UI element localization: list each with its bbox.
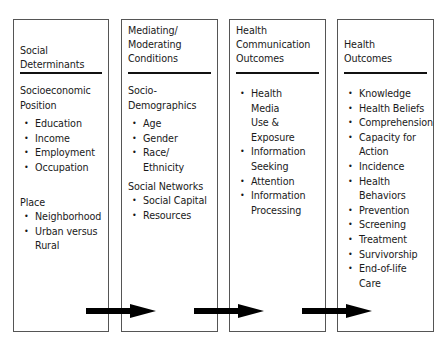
- title-line: Social: [20, 44, 102, 58]
- title-line: Determinants: [20, 58, 102, 72]
- column-social-determinants: Social Determinants Socioeconomic Positi…: [13, 19, 109, 332]
- title-line: Outcomes: [236, 52, 319, 66]
- column-title: Mediating/ Moderating Conditions: [128, 24, 211, 66]
- label-line: Socioeconomic: [20, 84, 104, 99]
- section-label-socio-demographics: Socio- Demographics: [128, 84, 213, 113]
- title-line: Health: [344, 38, 427, 52]
- list-item: Screening: [344, 218, 429, 233]
- list-item: Occupation: [20, 161, 104, 176]
- item-list: Social Capital Resources: [128, 194, 213, 223]
- column-health-communication-outcomes: Health Communication Outcomes Health Med…: [229, 19, 326, 332]
- list-item: Survivorship: [344, 248, 429, 263]
- list-item: Neighborhood: [20, 210, 104, 225]
- label-line: Position: [20, 99, 104, 114]
- arrow-right-icon: [86, 304, 156, 318]
- title-divider: [236, 72, 319, 74]
- list-item: End-of-life Care: [344, 262, 419, 291]
- column-title: Health Communication Outcomes: [236, 24, 319, 66]
- title-line: Communication: [236, 38, 319, 52]
- list-item: Health Beliefs: [344, 102, 429, 117]
- list-item: Urban versus Rural: [20, 225, 104, 254]
- title-divider: [20, 72, 102, 74]
- title-line: Conditions: [128, 52, 211, 66]
- list-item: Employment: [20, 146, 104, 161]
- item-list: Knowledge Health Beliefs Comprehension C…: [344, 87, 429, 291]
- title-divider: [344, 72, 427, 74]
- column-health-outcomes: Health Outcomes Knowledge Health Beliefs…: [337, 19, 434, 332]
- column-content: Socio- Demographics Age Gender Race/ Eth…: [128, 84, 213, 223]
- list-item: Information Processing: [236, 189, 321, 218]
- list-item: Income: [20, 132, 104, 147]
- title-line: Moderating: [128, 38, 211, 52]
- section-label-socioeconomic-position: Socioeconomic Position: [20, 84, 104, 113]
- item-list: Education Income Employment Occupation: [20, 117, 104, 175]
- list-item: Age: [128, 117, 213, 132]
- column-mediating-moderating-conditions: Mediating/ Moderating Conditions Socio- …: [121, 19, 218, 332]
- column-title: Health Outcomes: [344, 38, 427, 66]
- list-item: Knowledge: [344, 87, 429, 102]
- list-item: Social Capital: [128, 194, 213, 209]
- label-line: Socio-: [128, 84, 213, 99]
- column-content: Socioeconomic Position Education Income …: [20, 84, 104, 254]
- list-item: Capacity for Action: [344, 131, 425, 160]
- section-label-social-networks: Social Networks: [128, 180, 213, 195]
- column-content: Health Media Use & Exposure Information …: [236, 87, 321, 218]
- item-list: Health Media Use & Exposure Information …: [236, 87, 321, 218]
- list-item: Information Seeking: [236, 145, 321, 174]
- arrow-right-icon: [194, 304, 264, 318]
- title-line: Mediating/: [128, 24, 211, 38]
- column-title: Social Determinants: [20, 44, 102, 72]
- list-item: Gender: [128, 132, 213, 147]
- list-item: Prevention: [344, 204, 429, 219]
- list-item: Health Media Use & Exposure: [236, 87, 295, 145]
- title-divider: [128, 72, 211, 74]
- list-item: Resources: [128, 209, 213, 224]
- label-line: Place: [20, 196, 104, 211]
- list-item: Incidence: [344, 160, 429, 175]
- label-line: Demographics: [128, 99, 213, 114]
- list-item: Attention: [236, 175, 321, 190]
- list-item: Comprehension: [344, 116, 429, 131]
- list-item: Race/ Ethnicity: [128, 146, 203, 175]
- list-item: Treatment: [344, 233, 429, 248]
- arrow-right-icon: [302, 304, 372, 318]
- list-item: Education: [20, 117, 104, 132]
- column-content: Knowledge Health Beliefs Comprehension C…: [344, 87, 429, 291]
- item-list: Age Gender Race/ Ethnicity: [128, 117, 213, 175]
- label-line: Social Networks: [128, 180, 213, 195]
- section-label-place: Place: [20, 196, 104, 211]
- title-line: Outcomes: [344, 52, 427, 66]
- item-list: Neighborhood Urban versus Rural: [20, 210, 104, 254]
- spacer: [20, 176, 104, 196]
- title-line: Health: [236, 24, 319, 38]
- list-item: Health Behaviors: [344, 175, 415, 204]
